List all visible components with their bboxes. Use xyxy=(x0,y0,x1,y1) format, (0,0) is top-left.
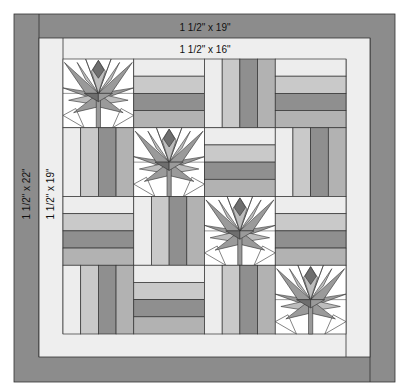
inner-top-border-label: 1 1/2" x 16" xyxy=(179,44,230,55)
stripe xyxy=(63,214,134,231)
vertical-block xyxy=(134,197,205,266)
vertical-block xyxy=(205,59,276,128)
stripe xyxy=(134,59,205,76)
stripe xyxy=(275,214,346,231)
stripe xyxy=(275,231,346,248)
quilt-diagram: 1 1/2" x 19" 1 1/2" x 16" 1 1/2" x 22" 1… xyxy=(0,0,406,392)
horizontal-block xyxy=(205,128,276,197)
stripe xyxy=(134,317,205,334)
stripe xyxy=(258,265,276,334)
stripe xyxy=(134,197,152,266)
stripe xyxy=(187,197,205,266)
stripe xyxy=(134,265,205,282)
stripe xyxy=(134,93,205,110)
stripe xyxy=(240,265,258,334)
stripe xyxy=(98,265,116,334)
stripe xyxy=(98,128,116,197)
stripe xyxy=(222,59,240,128)
stripe xyxy=(63,248,134,265)
horizontal-block xyxy=(275,59,346,128)
stripe xyxy=(63,197,134,214)
stripe xyxy=(81,128,99,197)
stripe xyxy=(116,128,134,197)
stripe xyxy=(134,111,205,128)
horizontal-block xyxy=(63,197,134,266)
stripe xyxy=(151,197,169,266)
horizontal-block xyxy=(134,265,205,334)
stripe xyxy=(205,162,276,179)
stripe xyxy=(311,128,329,197)
stripe xyxy=(275,93,346,110)
stripe xyxy=(63,265,81,334)
outer-top-border-label: 1 1/2" x 19" xyxy=(179,22,230,33)
lotus-block xyxy=(63,59,134,128)
stripe xyxy=(205,265,223,334)
stripe xyxy=(134,76,205,93)
stripe xyxy=(63,231,134,248)
stripe xyxy=(275,128,293,197)
vertical-block xyxy=(205,265,276,334)
stripe xyxy=(275,76,346,93)
stripe xyxy=(116,265,134,334)
vertical-block xyxy=(275,128,346,197)
stripe xyxy=(205,179,276,196)
stripe xyxy=(134,300,205,317)
vertical-block xyxy=(63,128,134,197)
stripe xyxy=(275,248,346,265)
stripe xyxy=(169,197,187,266)
stripe xyxy=(275,59,346,76)
stripe xyxy=(222,265,240,334)
block-grid xyxy=(63,59,346,334)
vertical-block xyxy=(63,265,134,334)
stripe xyxy=(205,145,276,162)
horizontal-block xyxy=(134,59,205,128)
stripe xyxy=(293,128,311,197)
stripe xyxy=(240,59,258,128)
stripe xyxy=(63,128,81,197)
outer-side-border-label: 1 1/2" x 22" xyxy=(21,168,32,219)
lotus-block xyxy=(275,265,346,334)
stripe xyxy=(205,128,276,145)
stripe xyxy=(275,111,346,128)
lotus-block xyxy=(205,197,276,266)
lotus-block xyxy=(134,128,205,197)
inner-side-border-label: 1 1/2" x 19" xyxy=(45,168,56,219)
stripe xyxy=(328,128,346,197)
stripe xyxy=(81,265,99,334)
stripe xyxy=(134,282,205,299)
stripe xyxy=(205,59,223,128)
horizontal-block xyxy=(275,197,346,266)
stripe xyxy=(275,197,346,214)
stripe xyxy=(258,59,276,128)
